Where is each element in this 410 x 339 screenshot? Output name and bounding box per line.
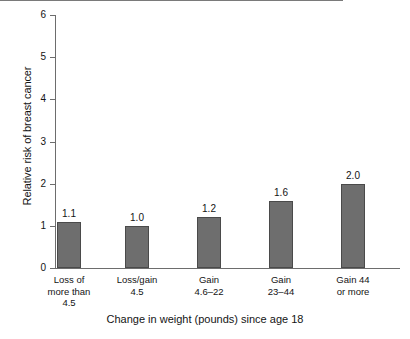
y-axis-line bbox=[55, 15, 56, 269]
x-axis-category-label-line: more than bbox=[31, 286, 107, 298]
y-axis-tick bbox=[50, 268, 55, 269]
y-axis-tick bbox=[50, 57, 55, 58]
y-axis-tick-label: 6 bbox=[28, 10, 46, 20]
x-axis-category-label-line: 4.5 bbox=[99, 286, 175, 298]
y-axis-tick bbox=[50, 184, 55, 185]
x-axis-category-label-line: or more bbox=[315, 286, 391, 298]
x-axis-category-label: Loss ofmore than4.5 bbox=[31, 274, 107, 309]
x-axis-category-label: Gain4.6–22 bbox=[171, 274, 247, 297]
y-axis-tick bbox=[50, 142, 55, 143]
y-axis-tick bbox=[50, 15, 55, 16]
y-axis-tick bbox=[50, 99, 55, 100]
bar-value-label: 1.2 bbox=[189, 204, 229, 214]
x-axis-category-label-line: Loss of bbox=[31, 274, 107, 286]
y-axis-tick-label: 5 bbox=[28, 52, 46, 62]
bar-value-label: 1.1 bbox=[49, 209, 89, 219]
plot-area: 0123456 1.11.01.21.62.0 Loss ofmore than… bbox=[0, 0, 410, 339]
bar bbox=[57, 222, 81, 268]
x-axis-category-label-line: Loss/gain bbox=[99, 274, 175, 286]
bar bbox=[341, 184, 365, 268]
x-axis-category-label-line: 4.6–22 bbox=[171, 286, 247, 298]
y-axis-tick bbox=[50, 226, 55, 227]
bar-chart-figure: Relative risk of breast cancer 0123456 1… bbox=[0, 0, 410, 339]
bar-value-label: 1.0 bbox=[117, 213, 157, 223]
reference-line-at-1 bbox=[0, 0, 343, 1]
y-axis-tick-label: 2 bbox=[28, 179, 46, 189]
y-axis-tick-label: 3 bbox=[28, 137, 46, 147]
y-axis-tick-label: 4 bbox=[28, 94, 46, 104]
y-axis-tick-label: 0 bbox=[28, 263, 46, 273]
x-axis-category-label-line: Gain bbox=[243, 274, 319, 286]
bar bbox=[269, 201, 293, 268]
x-axis-category-label-line: Gain 44 bbox=[315, 274, 391, 286]
bar-value-label: 1.6 bbox=[261, 188, 301, 198]
x-axis-category-label-line: Gain bbox=[171, 274, 247, 286]
x-axis-category-label: Loss/gain4.5 bbox=[99, 274, 175, 297]
x-axis-category-label: Gain 44or more bbox=[315, 274, 391, 297]
x-axis-category-label-line: 4.5 bbox=[31, 297, 107, 309]
x-axis-line bbox=[55, 268, 400, 269]
y-axis-tick-label: 1 bbox=[28, 221, 46, 231]
bar bbox=[197, 217, 221, 268]
x-axis-category-label: Gain23–44 bbox=[243, 274, 319, 297]
bar-value-label: 2.0 bbox=[333, 171, 373, 181]
x-axis-title: Change in weight (pounds) since age 18 bbox=[0, 313, 410, 325]
bar bbox=[125, 226, 149, 268]
x-axis-category-label-line: 23–44 bbox=[243, 286, 319, 298]
